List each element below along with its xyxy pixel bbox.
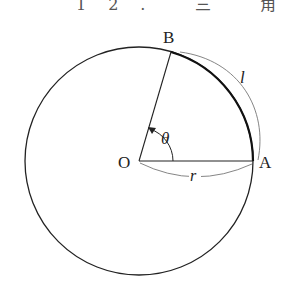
radius-label: r [190, 167, 197, 184]
angle-theta-label: θ [161, 129, 169, 148]
point-a-label: A [259, 153, 272, 172]
point-o-label: O [118, 153, 130, 172]
arc-length-bracket [180, 52, 260, 160]
arc-length-label: l [240, 68, 245, 87]
circle-arc-diagram: B O A θ l r [0, 0, 296, 299]
point-b-label: B [163, 28, 174, 47]
